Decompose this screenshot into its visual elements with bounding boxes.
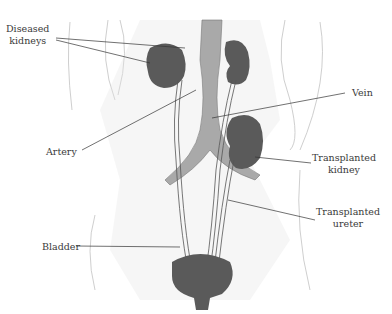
diagram-canvas: Diseased kidneys Artery Vein Transplante… [0, 0, 392, 314]
label-line-2: kidneys [6, 35, 49, 47]
label-bladder: Bladder [42, 241, 80, 253]
label-vein: Vein [352, 87, 373, 99]
bladder-shape [172, 254, 233, 310]
transplanted-kidney-shape [226, 115, 263, 169]
label-line-2: ureter [316, 218, 380, 230]
label-diseased-kidneys: Diseased kidneys [6, 23, 49, 47]
label-transplanted-ureter: Transplanted ureter [316, 206, 380, 230]
label-line-1: Diseased [6, 23, 49, 35]
label-artery: Artery [46, 146, 77, 158]
label-line-1: Transplanted [316, 206, 380, 218]
label-transplanted-kidney: Transplanted kidney [312, 152, 376, 176]
label-line-1: Transplanted [312, 152, 376, 164]
label-line-2: kidney [312, 164, 376, 176]
diseased-kidney-left [146, 43, 185, 88]
